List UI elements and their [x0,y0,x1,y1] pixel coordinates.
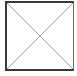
broken-image-icon [7,3,73,69]
image-placeholder [5,1,74,71]
